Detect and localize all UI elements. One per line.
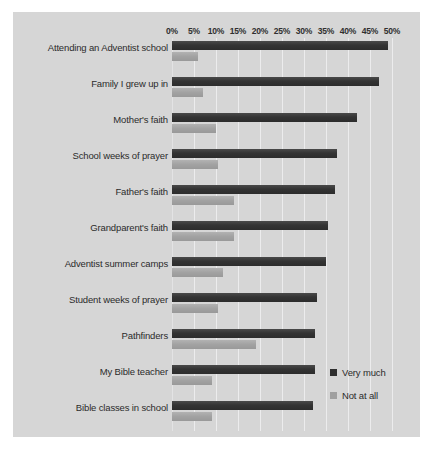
chart-legend: Very much Not at all — [330, 364, 418, 410]
bar-very-much — [172, 77, 379, 86]
x-axis-tick-50pct: 50% — [384, 26, 400, 36]
x-axis-tick-0pct: 0% — [166, 26, 178, 36]
bar-very-much — [172, 221, 328, 230]
category-label: Family I grew up in — [18, 78, 168, 89]
category-label: Student weeks of prayer — [18, 294, 168, 305]
x-axis-tick-25pct: 25% — [274, 26, 290, 36]
bar-row: Family I grew up in — [13, 74, 420, 110]
bar-row: Adventist summer camps — [13, 254, 420, 290]
bar-very-much — [172, 293, 317, 302]
legend-swatch-not-at-all — [330, 392, 337, 399]
bar-row: Mother's faith — [13, 110, 420, 146]
bar-not-at-all — [172, 88, 203, 97]
bar-row: School weeks of prayer — [13, 146, 420, 182]
x-axis-tick-30pct: 30% — [296, 26, 312, 36]
bar-row: Attending an Adventist school — [13, 38, 420, 74]
bar-not-at-all — [172, 196, 234, 205]
bar-very-much — [172, 185, 335, 194]
category-label: Attending an Adventist school — [18, 42, 168, 53]
category-label: Father's faith — [18, 186, 168, 197]
legend-item-not-at-all: Not at all — [330, 387, 418, 404]
x-axis-tick-40pct: 40% — [340, 26, 356, 36]
legend-swatch-very-much — [330, 369, 337, 376]
category-label: Grandparent's faith — [18, 222, 168, 233]
category-label: Bible classes in school — [18, 402, 168, 413]
bar-very-much — [172, 149, 337, 158]
x-axis-tick-10pct: 10% — [208, 26, 224, 36]
bar-row: Student weeks of prayer — [13, 290, 420, 326]
x-axis-tick-5pct: 5% — [188, 26, 200, 36]
bar-not-at-all — [172, 124, 216, 133]
bar-not-at-all — [172, 376, 212, 385]
bar-row: Pathfinders — [13, 326, 420, 362]
category-label: Pathfinders — [18, 330, 168, 341]
bar-chart-figure: 0%5%10%15%20%25%30%35%40%45%50% Attendin… — [13, 12, 420, 437]
bar-row: Grandparent's faith — [13, 218, 420, 254]
category-label: Adventist summer camps — [18, 258, 168, 269]
x-axis-tick-20pct: 20% — [252, 26, 268, 36]
bar-very-much — [172, 401, 313, 410]
legend-label-very-much: Very much — [342, 367, 386, 378]
category-label: Mother's faith — [18, 114, 168, 125]
bar-not-at-all — [172, 268, 223, 277]
bar-not-at-all — [172, 412, 212, 421]
bar-very-much — [172, 329, 315, 338]
bar-very-much — [172, 257, 326, 266]
bar-not-at-all — [172, 340, 256, 349]
bar-not-at-all — [172, 304, 218, 313]
bar-not-at-all — [172, 52, 198, 61]
x-axis-tick-15pct: 15% — [230, 26, 246, 36]
category-label: School weeks of prayer — [18, 150, 168, 161]
legend-item-very-much: Very much — [330, 364, 418, 381]
bar-very-much — [172, 41, 388, 50]
x-axis-tick-45pct: 45% — [362, 26, 378, 36]
bar-row: Father's faith — [13, 182, 420, 218]
category-label: My Bible teacher — [18, 366, 168, 377]
bar-very-much — [172, 113, 357, 122]
legend-label-not-at-all: Not at all — [342, 390, 378, 401]
bar-not-at-all — [172, 160, 218, 169]
x-axis-tick-35pct: 35% — [318, 26, 334, 36]
x-axis-tick-labels: 0%5%10%15%20%25%30%35%40%45%50% — [172, 26, 392, 38]
bar-very-much — [172, 365, 315, 374]
bar-not-at-all — [172, 232, 234, 241]
